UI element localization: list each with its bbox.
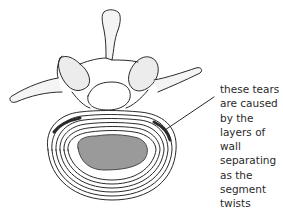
- caption-line: separating: [220, 153, 283, 167]
- caption-line: segment: [220, 182, 283, 196]
- left-facet: [58, 56, 89, 90]
- left-transverse-process: [10, 78, 62, 102]
- annotation-caption: these tears are caused by the layers of …: [220, 82, 283, 211]
- vertebral-foramen: [88, 82, 131, 110]
- spinous-process: [102, 10, 120, 60]
- right-facet: [129, 57, 159, 91]
- caption-line: twists: [220, 196, 283, 210]
- caption-line: these tears: [220, 82, 283, 96]
- right-transverse-process: [154, 68, 202, 92]
- caption-line: are caused: [220, 96, 283, 110]
- nucleus: [78, 135, 148, 170]
- caption-line: wall: [220, 139, 283, 153]
- caption-line: by the: [220, 111, 283, 125]
- annotation-leader-line: [165, 97, 214, 130]
- caption-line: as the: [220, 168, 283, 182]
- caption-line: layers of: [220, 125, 283, 139]
